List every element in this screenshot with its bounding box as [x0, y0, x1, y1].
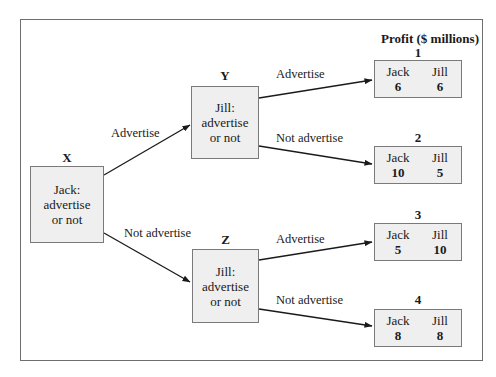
- outcome-player-jack: Jack: [386, 227, 409, 242]
- node-x-box: Jack: advertise or not: [30, 166, 104, 243]
- outcome-3-box: Jack5 Jill10: [374, 223, 462, 261]
- node-x-label: X: [30, 150, 104, 166]
- node-y-line: advertise: [202, 115, 249, 130]
- outcome-value-jill: 6: [423, 79, 457, 94]
- outcome-player-jack: Jack: [386, 64, 409, 79]
- node-x-line: Jack:: [54, 182, 81, 197]
- edge-y-1: [259, 80, 372, 98]
- outcome-2-label: 2: [374, 130, 462, 146]
- outcome-value-jack: 10: [381, 165, 415, 180]
- outcome-4-label: 4: [374, 292, 462, 308]
- outcome-1-box: Jack6 Jill6: [374, 60, 462, 98]
- outcome-player-jack: Jack: [386, 150, 409, 165]
- outcome-player-jill: Jill: [432, 313, 448, 328]
- node-z-line: Jill:: [216, 264, 236, 279]
- outcome-1-label: 1: [374, 45, 462, 61]
- outcome-4-box: Jack8 Jill8: [374, 309, 462, 347]
- edge-z-4: [259, 309, 372, 326]
- edge-label-y-2: Not advertise: [276, 131, 343, 146]
- node-z-line: or not: [210, 294, 241, 309]
- outcome-player-jill: Jill: [432, 64, 448, 79]
- edge-label-x-z: Not advertise: [124, 226, 191, 241]
- node-y-box: Jill: advertise or not: [191, 86, 259, 159]
- node-y-line: or not: [210, 130, 241, 145]
- outcome-value-jack: 6: [381, 79, 415, 94]
- edge-label-z-3: Advertise: [276, 232, 325, 247]
- outcome-value-jack: 5: [381, 242, 415, 257]
- outcome-2-box: Jack10 Jill5: [374, 146, 462, 184]
- node-y-line: Jill:: [215, 100, 235, 115]
- edge-label-z-4: Not advertise: [276, 293, 343, 308]
- outcome-value-jill: 5: [423, 165, 457, 180]
- edge-label-y-1: Advertise: [276, 67, 325, 82]
- edge-label-x-y: Advertise: [111, 126, 160, 141]
- outcome-player-jack: Jack: [386, 313, 409, 328]
- node-z-box: Jill: advertise or not: [192, 249, 259, 323]
- outcome-3-label: 3: [374, 207, 462, 223]
- node-z-label: Z: [192, 232, 259, 248]
- node-x-line: or not: [52, 212, 83, 227]
- node-x-line: advertise: [44, 197, 91, 212]
- outcome-player-jill: Jill: [432, 150, 448, 165]
- outcome-value-jill: 10: [423, 242, 457, 257]
- outcome-value-jack: 8: [381, 328, 415, 343]
- edge-y-2: [259, 146, 372, 164]
- outcome-value-jill: 8: [423, 328, 457, 343]
- outcome-player-jill: Jill: [432, 227, 448, 242]
- node-z-line: advertise: [202, 279, 249, 294]
- node-y-label: Y: [191, 68, 259, 84]
